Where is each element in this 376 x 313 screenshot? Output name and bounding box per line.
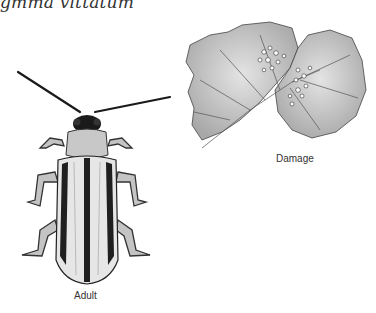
damage-label: Damage (276, 153, 314, 164)
damaged-leaf-illustration (180, 20, 376, 150)
adult-label: Adult (74, 290, 97, 301)
beetle-illustration (0, 60, 190, 290)
species-title: gmma vittatum (0, 0, 134, 12)
